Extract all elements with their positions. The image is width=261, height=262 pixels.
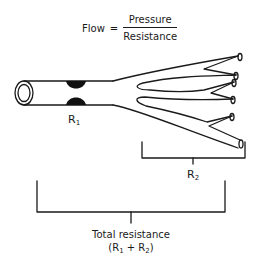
label-total-resistance: Total resistance (0, 230, 261, 240)
sum-open: (R (108, 242, 119, 253)
r1-base: R (68, 113, 76, 126)
stenosis-plaques (66, 81, 86, 105)
branching-vessels (113, 54, 243, 149)
vessel-diagram (0, 0, 261, 262)
plaque-top (66, 81, 86, 89)
label-r2: R2 (187, 169, 199, 182)
sum-plus: + R (124, 242, 146, 253)
r2-subscript: 2 (195, 174, 199, 182)
plaque-bottom (66, 98, 86, 106)
main-vessel (15, 81, 113, 105)
label-r1: R1 (68, 114, 80, 127)
total-bracket (37, 181, 225, 223)
r2-base: R (187, 168, 195, 181)
sum-close: ) (150, 242, 154, 253)
label-resistance-sum: (R1 + R2) (0, 243, 261, 255)
r1-subscript: 1 (76, 119, 80, 127)
